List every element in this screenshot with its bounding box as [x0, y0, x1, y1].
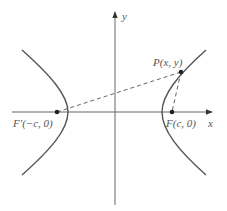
dashed-line-P-to-F	[172, 72, 181, 112]
hyperbola-diagram: y x P(x, y) F(c, 0) F′(−c, 0)	[0, 0, 227, 211]
point-P	[179, 70, 184, 75]
x-axis-label: x	[207, 117, 213, 129]
focus-left-point	[55, 110, 60, 115]
focus-left-label: F′(−c, 0)	[12, 117, 53, 130]
y-axis-label: y	[121, 10, 127, 22]
focus-right-point	[170, 110, 175, 115]
point-P-label: P(x, y)	[152, 56, 183, 69]
focus-right-label: F(c, 0)	[165, 117, 196, 130]
